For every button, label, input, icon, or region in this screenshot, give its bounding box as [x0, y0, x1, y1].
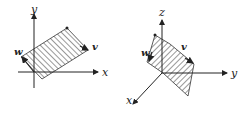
w-label: w	[141, 47, 150, 58]
z-axis-label: z	[158, 6, 165, 19]
diagram-2d: y x w v	[0, 0, 125, 113]
parallelogram-region	[21, 28, 88, 79]
diagram-3d: z y x w v	[125, 0, 251, 113]
x-axis	[133, 73, 162, 104]
figure-3d-parallelogram: z y x w v	[125, 0, 251, 113]
y-axis-label: y	[30, 3, 38, 16]
v-label: v	[181, 41, 187, 52]
x-axis-label: x	[126, 94, 133, 107]
w-label: w	[14, 46, 23, 57]
figure-2d-parallelogram: y x w v	[0, 0, 125, 113]
parallelogram-region	[147, 35, 194, 96]
v-label: v	[92, 41, 98, 52]
y-axis-label: y	[230, 67, 238, 80]
vertex-dot	[66, 27, 69, 30]
x-axis-label: x	[102, 66, 109, 79]
vertex-dot	[154, 34, 157, 37]
